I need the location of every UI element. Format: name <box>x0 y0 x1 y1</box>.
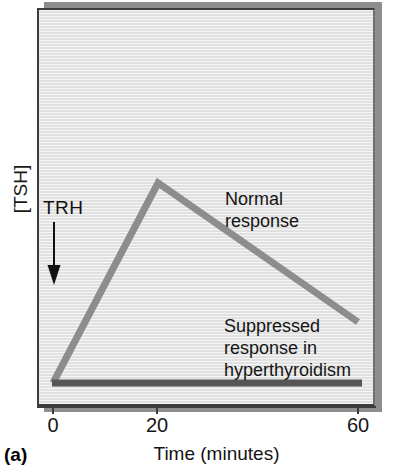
suppressed-response-annotation: Suppressed response in hyperthyroidism <box>224 315 351 381</box>
x-tick-label-20: 20 <box>146 414 168 437</box>
x-tick-label-0: 0 <box>47 414 58 437</box>
suppressed-response-line-3: hyperthyroidism <box>224 359 351 381</box>
suppressed-response-line-2: response in <box>224 337 351 359</box>
y-axis-title: [TSH] <box>10 147 32 231</box>
panel-letter: (a) <box>4 444 27 466</box>
normal-response-line-1: Normal <box>225 188 299 210</box>
figure-panel-a: [TSH] TRH Normal response Suppressed res… <box>0 0 397 474</box>
normal-response-annotation: Normal response <box>225 188 299 232</box>
x-axis-title: Time (minutes) <box>0 443 397 465</box>
normal-response-line-2: response <box>225 210 299 232</box>
suppressed-response-line-1: Suppressed <box>224 315 351 337</box>
trh-label: TRH <box>43 197 84 219</box>
x-tick-label-60: 60 <box>347 414 369 437</box>
